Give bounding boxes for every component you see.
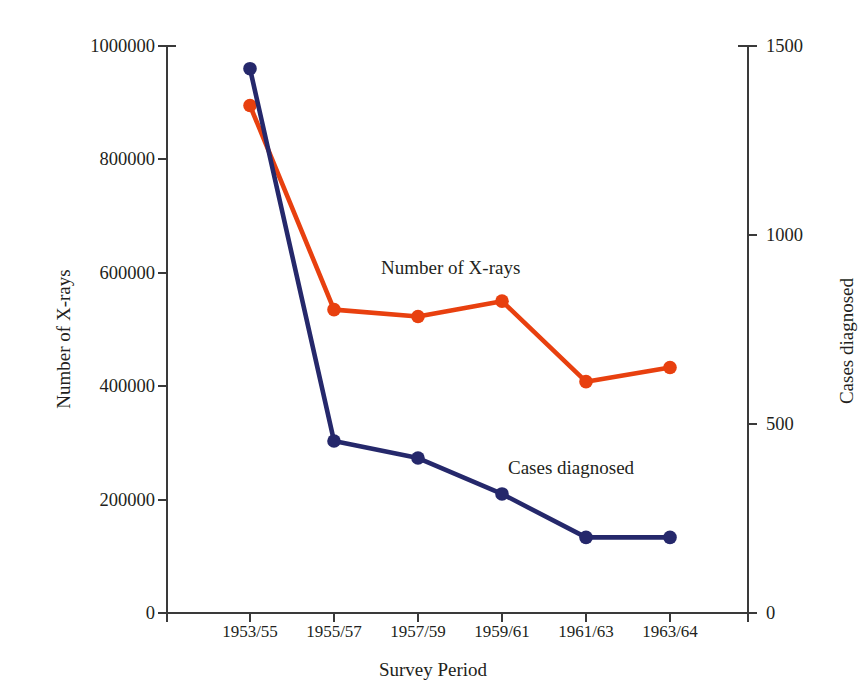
data-point-marker — [327, 434, 341, 448]
series-line — [250, 69, 670, 538]
data-point-marker — [663, 361, 677, 375]
data-point-marker — [411, 451, 425, 465]
data-point-marker — [243, 62, 257, 76]
plot-area — [0, 0, 866, 694]
series-cases-diagnosed — [243, 62, 677, 544]
data-point-marker — [243, 99, 257, 113]
data-point-marker — [411, 310, 425, 324]
data-point-marker — [663, 531, 677, 545]
data-point-marker — [495, 294, 509, 308]
data-point-marker — [495, 487, 509, 501]
data-point-marker — [579, 531, 593, 545]
data-point-marker — [327, 303, 341, 317]
chart-figure: 02000004000006000008000001000000 0500100… — [0, 0, 866, 694]
data-point-marker — [579, 375, 593, 389]
series-number-of-xrays — [243, 99, 677, 389]
